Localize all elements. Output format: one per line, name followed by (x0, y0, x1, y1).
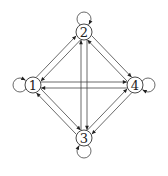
edge-2-to-4 (92, 36, 132, 77)
edge-4-to-2 (87, 40, 127, 81)
edge-line (36, 36, 76, 77)
edge-4-to-3 (92, 93, 132, 134)
edge-line (92, 93, 132, 134)
directed-graph-diagram: 1234 (0, 0, 168, 176)
edge-line (87, 40, 127, 81)
node-label: 4 (131, 78, 139, 93)
edge-3-to-1 (36, 93, 76, 134)
node-4: 4 (127, 77, 143, 93)
edges-layer (36, 36, 131, 135)
node-label: 2 (80, 25, 88, 40)
node-label: 1 (29, 78, 37, 93)
edge-1-to-2 (36, 36, 76, 77)
edge-line (92, 36, 132, 77)
nodes-layer: 1234 (25, 24, 143, 146)
edge-2-to-3 (85, 40, 89, 130)
edge-4-to-1 (41, 86, 127, 90)
edge-line (41, 40, 81, 81)
edge-1-to-3 (41, 89, 81, 130)
edge-line (41, 89, 81, 130)
node-label: 3 (80, 131, 88, 146)
node-2: 2 (76, 24, 92, 40)
edge-3-to-2 (79, 40, 83, 130)
edge-2-to-1 (41, 40, 81, 81)
node-3: 3 (76, 130, 92, 146)
edge-3-to-4 (87, 89, 127, 130)
edge-line (87, 89, 127, 130)
node-1: 1 (25, 77, 41, 93)
edge-1-to-4 (41, 80, 127, 84)
edge-line (36, 93, 76, 134)
